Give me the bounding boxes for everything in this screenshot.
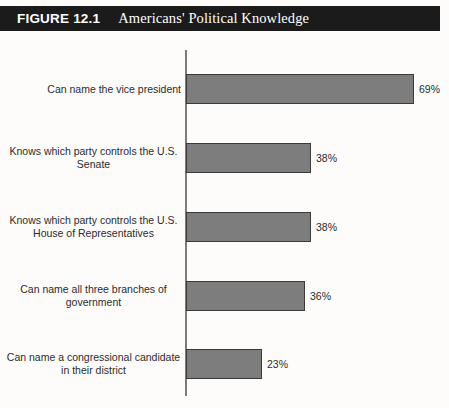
bar-row: Can name the vice president69% (0, 73, 449, 105)
bar-value-label: 36% (310, 290, 331, 302)
bar-category-label: Can name all three branches of governmen… (6, 283, 181, 309)
bar-category-label: Knows which party controls the U.S. Hous… (6, 214, 181, 240)
figure-header-banner: FIGURE 12.1 Americans' Political Knowled… (0, 6, 440, 31)
bar-row: Can name all three branches of governmen… (0, 280, 449, 312)
figure-container: FIGURE 12.1 Americans' Political Knowled… (0, 0, 449, 408)
chart-plot-area: Can name the vice president69%Knows whic… (0, 31, 449, 408)
bar-row: Knows which party controls the U.S. Sena… (0, 142, 449, 174)
bar-value-label: 38% (316, 152, 337, 164)
bar-value-label: 69% (419, 83, 440, 95)
bar-category-label: Can name a congressional candidate in th… (6, 351, 181, 377)
bar-value-label: 38% (316, 221, 337, 233)
bar-rect (186, 281, 305, 311)
bar-rect (186, 74, 414, 104)
figure-number-label: FIGURE 12.1 (17, 11, 100, 26)
bar-category-label: Can name the vice president (6, 83, 181, 96)
bar-rect (186, 349, 262, 379)
bar-row: Can name a congressional candidate in th… (0, 348, 449, 380)
figure-title: Americans' Political Knowledge (118, 10, 309, 27)
bar-row: Knows which party controls the U.S. Hous… (0, 211, 449, 243)
bar-value-label: 23% (267, 358, 288, 370)
bar-rect (186, 143, 311, 173)
bar-category-label: Knows which party controls the U.S. Sena… (6, 145, 181, 171)
bar-rect (186, 212, 311, 242)
